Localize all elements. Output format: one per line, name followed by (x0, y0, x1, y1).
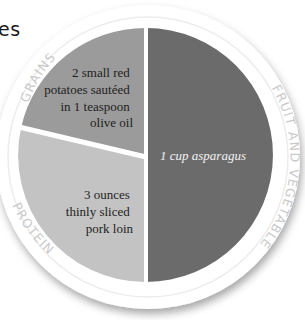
plate-diagram: GRAINS FRUIT AND VEGETABLE PROTEIN 2 sma… (0, 0, 305, 320)
fruit-vegetable-food: 1 cup asparagus (160, 148, 246, 163)
